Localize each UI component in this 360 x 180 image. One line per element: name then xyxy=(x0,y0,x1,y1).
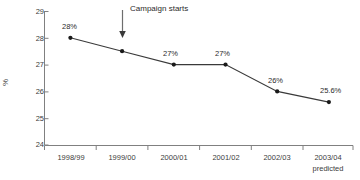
data-point xyxy=(120,49,124,53)
x-tick-sublabel: predicted xyxy=(302,164,354,173)
data-series-line xyxy=(70,38,329,102)
data-point xyxy=(223,63,227,67)
line-chart: % 29 28 27 26 25 24 xyxy=(0,0,360,180)
data-point-label: 25.6% xyxy=(320,86,341,95)
x-tick-label: 1999/00 xyxy=(96,153,148,162)
data-point-label: 26% xyxy=(268,76,283,85)
x-tick-label: 2000/01 xyxy=(148,153,200,162)
x-tick-label: 2003/04 xyxy=(302,153,354,162)
x-tick-label: 2001/02 xyxy=(200,153,252,162)
x-tick-label: 1998/99 xyxy=(45,153,97,162)
data-point-label: 28% xyxy=(62,22,77,31)
data-point xyxy=(275,89,279,93)
y-axis-ticks xyxy=(45,12,49,146)
data-point-label: 27% xyxy=(163,49,178,58)
data-point-label: 27% xyxy=(215,49,230,58)
campaign-annotation-label: Campaign starts xyxy=(130,4,188,13)
data-point xyxy=(172,63,176,67)
x-tick-label: 2002/03 xyxy=(251,153,303,162)
data-point xyxy=(327,100,331,104)
x-axis-ticks xyxy=(45,146,354,151)
campaign-arrow-icon xyxy=(119,10,126,38)
data-point xyxy=(68,36,72,40)
